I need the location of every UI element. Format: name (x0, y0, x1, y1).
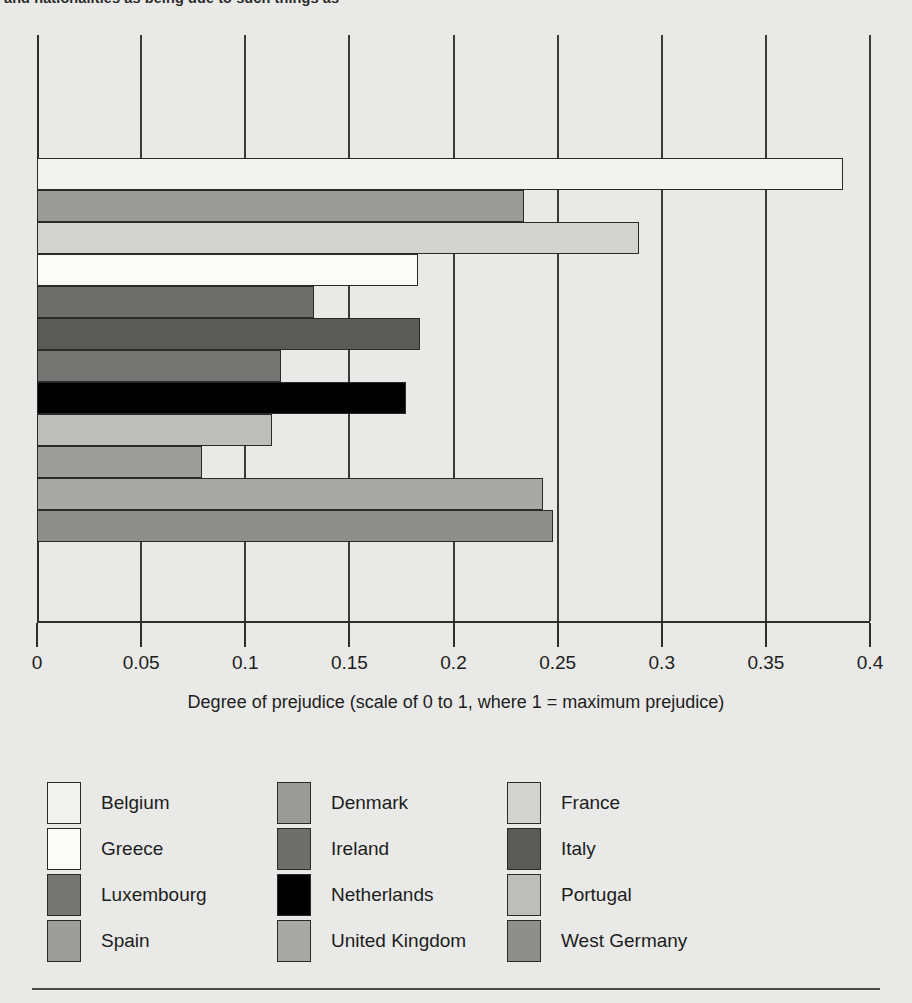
legend-label: Spain (101, 930, 150, 952)
legend-label: Netherlands (331, 884, 433, 906)
legend-item-italy[interactable]: Italy (507, 828, 596, 870)
x-axis-tick (453, 623, 455, 647)
legend-label: West Germany (561, 930, 687, 952)
bar-greece (37, 254, 418, 286)
bar-ireland (37, 286, 314, 318)
bar-portugal (37, 414, 272, 446)
x-axis-tick-label: 0.1 (232, 652, 258, 674)
legend-item-west-germany[interactable]: West Germany (507, 920, 687, 962)
gridline (661, 35, 663, 621)
legend-item-portugal[interactable]: Portugal (507, 874, 632, 916)
bar-west-germany (37, 510, 553, 542)
legend-swatch-icon (507, 782, 541, 824)
legend-label: Ireland (331, 838, 389, 860)
legend-item-france[interactable]: France (507, 782, 620, 824)
x-axis-tick (557, 623, 559, 647)
bar-netherlands (37, 382, 406, 414)
x-axis-title: Degree of prejudice (scale of 0 to 1, wh… (0, 692, 912, 713)
bar-belgium (37, 158, 843, 190)
legend-swatch-icon (47, 828, 81, 870)
x-axis-tick-label: 0.15 (331, 652, 368, 674)
x-axis-tick-label: 0.25 (539, 652, 576, 674)
x-axis-tick (140, 623, 142, 647)
legend-item-belgium[interactable]: Belgium (47, 782, 170, 824)
legend-item-ireland[interactable]: Ireland (277, 828, 389, 870)
bar-united-kingdom (37, 478, 543, 510)
gridline (557, 35, 559, 621)
gridline (869, 35, 871, 621)
legend-swatch-icon (47, 782, 81, 824)
chart-page: and nationalities as being due to such t… (0, 0, 912, 1003)
legend-item-greece[interactable]: Greece (47, 828, 163, 870)
legend-label: France (561, 792, 620, 814)
x-axis-tick-label: 0.3 (649, 652, 675, 674)
legend-label: Denmark (331, 792, 408, 814)
x-axis-tick-label: 0.35 (747, 652, 784, 674)
legend-label: Luxembourg (101, 884, 207, 906)
x-axis-tick (244, 623, 246, 647)
x-axis-tick-label: 0 (32, 652, 43, 674)
legend-label: Portugal (561, 884, 632, 906)
legend-swatch-icon (47, 874, 81, 916)
legend-swatch-icon (277, 874, 311, 916)
chart-legend: BelgiumDenmarkFranceGreeceIrelandItalyLu… (0, 770, 912, 985)
legend-swatch-icon (507, 920, 541, 962)
x-axis-tick-label: 0.4 (857, 652, 883, 674)
bar-italy (37, 318, 420, 350)
legend-label: Greece (101, 838, 163, 860)
legend-item-united-kingdom[interactable]: United Kingdom (277, 920, 466, 962)
x-axis-tick (765, 623, 767, 647)
x-axis-tick-label: 0.2 (440, 652, 466, 674)
legend-swatch-icon (277, 828, 311, 870)
x-axis-tick-label: 0.05 (123, 652, 160, 674)
legend-swatch-icon (507, 828, 541, 870)
legend-item-denmark[interactable]: Denmark (277, 782, 408, 824)
legend-swatch-icon (507, 874, 541, 916)
legend-swatch-icon (277, 782, 311, 824)
x-axis-tick (661, 623, 663, 647)
legend-item-spain[interactable]: Spain (47, 920, 150, 962)
legend-item-luxembourg[interactable]: Luxembourg (47, 874, 207, 916)
legend-swatch-icon (47, 920, 81, 962)
bar-luxembourg (37, 350, 281, 382)
gridline (765, 35, 767, 621)
bar-spain (37, 446, 202, 478)
bar-france (37, 222, 639, 254)
x-axis-tick (36, 623, 38, 647)
legend-bottom-rule (32, 988, 880, 990)
x-axis-tick (869, 623, 871, 647)
legend-swatch-icon (277, 920, 311, 962)
bar-chart-plot-area: 00.050.10.150.20.250.30.350.4 Degree of … (0, 0, 912, 640)
legend-label: Belgium (101, 792, 170, 814)
x-axis-tick (348, 623, 350, 647)
legend-label: United Kingdom (331, 930, 466, 952)
bar-denmark (37, 190, 524, 222)
legend-item-netherlands[interactable]: Netherlands (277, 874, 433, 916)
legend-label: Italy (561, 838, 596, 860)
